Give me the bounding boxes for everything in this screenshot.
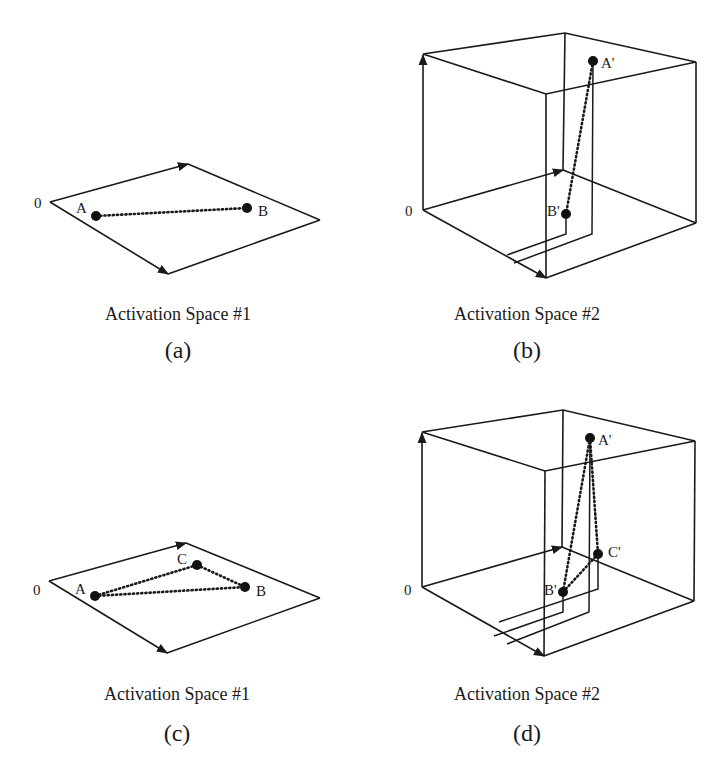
panel-b: 0 A' B' Activation Space #2 (b) bbox=[405, 33, 696, 363]
panel-sublabel: (c) bbox=[164, 720, 191, 746]
distance-line-ab bbox=[95, 587, 245, 596]
projection-b bbox=[494, 592, 563, 636]
distance-line-cb bbox=[197, 565, 245, 587]
point-a-label: A bbox=[76, 200, 87, 216]
origin-label: 0 bbox=[33, 582, 41, 598]
projection-a bbox=[507, 438, 590, 644]
point-b bbox=[240, 582, 250, 592]
panel-sublabel: (a) bbox=[165, 337, 192, 363]
panel-d: 0 A' B' C' Activation Space #2 (d) bbox=[404, 410, 695, 746]
panel-caption: Activation Space #1 bbox=[104, 684, 250, 704]
cube-edge bbox=[544, 471, 545, 656]
origin-label: 0 bbox=[34, 195, 42, 211]
point-a bbox=[91, 211, 101, 221]
cube-top-face bbox=[423, 33, 696, 94]
origin-label: 0 bbox=[404, 582, 412, 598]
axis-arrow-x bbox=[50, 164, 188, 202]
cube-edge bbox=[544, 601, 694, 656]
point-c-prime-label: C' bbox=[608, 544, 621, 560]
panel-caption: Activation Space #1 bbox=[105, 304, 251, 324]
distance-line-ab bbox=[96, 208, 247, 216]
point-c-label: C bbox=[177, 551, 187, 567]
point-b-label: B bbox=[256, 583, 266, 599]
panel-sublabel: (b) bbox=[513, 337, 541, 363]
distance-line-ac bbox=[95, 565, 197, 596]
point-c-prime bbox=[593, 549, 603, 559]
projection-a bbox=[514, 61, 593, 263]
axis-arrow-y bbox=[423, 210, 546, 278]
cube-edge bbox=[563, 33, 565, 170]
plane-edge bbox=[167, 598, 320, 653]
point-a-prime bbox=[588, 56, 598, 66]
panel-caption: Activation Space #2 bbox=[454, 684, 600, 704]
panel-sublabel: (d) bbox=[513, 720, 541, 746]
point-b-prime bbox=[558, 587, 568, 597]
point-b-prime-label: B' bbox=[547, 203, 560, 219]
cube-edge bbox=[546, 223, 696, 278]
axis-arrow-y bbox=[422, 587, 544, 656]
point-a-prime-label: A' bbox=[601, 55, 615, 71]
point-a-prime bbox=[585, 433, 595, 443]
cube-edge bbox=[562, 547, 694, 601]
origin-label: 0 bbox=[405, 203, 413, 219]
distance-line-ab bbox=[563, 438, 590, 592]
point-c bbox=[192, 560, 202, 570]
plane-edge bbox=[168, 220, 320, 274]
distance-line-ab bbox=[566, 61, 593, 214]
point-a-label: A bbox=[75, 581, 86, 597]
axis-arrow-x bbox=[423, 170, 563, 210]
cube-3d bbox=[422, 410, 695, 656]
distance-line-ac bbox=[590, 438, 598, 554]
axis-arrow-x bbox=[422, 547, 562, 587]
panel-c: 0 A B C Activation Space #1 (c) bbox=[33, 543, 320, 746]
cube-edge bbox=[563, 170, 696, 223]
cube-top-face bbox=[422, 410, 695, 471]
plane-2d bbox=[50, 164, 320, 274]
cube-3d bbox=[423, 33, 696, 278]
point-a-prime-label: A' bbox=[598, 432, 612, 448]
point-b bbox=[242, 203, 252, 213]
point-b-prime-label: B' bbox=[544, 582, 557, 598]
cube-edge bbox=[562, 410, 563, 547]
point-b-label: B bbox=[258, 203, 268, 219]
panel-caption: Activation Space #2 bbox=[454, 304, 600, 324]
activation-space-figure: 0 A B Activation Space #1 (a) bbox=[0, 0, 723, 766]
projection-b bbox=[507, 214, 566, 255]
panel-a: 0 A B Activation Space #1 (a) bbox=[34, 164, 320, 363]
point-b-prime bbox=[561, 209, 571, 219]
cube-edge bbox=[694, 441, 695, 601]
plane-edge bbox=[188, 164, 320, 220]
point-a bbox=[90, 591, 100, 601]
